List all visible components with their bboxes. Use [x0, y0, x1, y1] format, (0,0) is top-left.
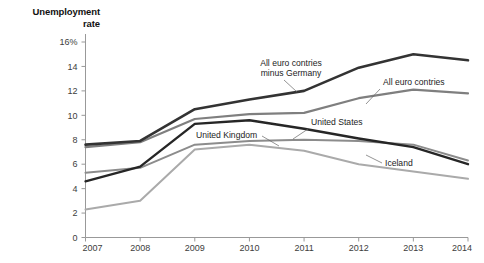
x-tick-label: 2008 — [130, 243, 150, 253]
y-tick-label: 12 — [67, 86, 77, 96]
series-label: Iceland — [385, 158, 413, 168]
series-label: All euro contries — [383, 77, 445, 87]
annotation-leader-line — [284, 80, 297, 92]
annotation-leader-line — [366, 155, 382, 163]
x-tick-label: 2011 — [294, 243, 313, 253]
series-line — [86, 145, 469, 210]
x-tick-label: 2013 — [403, 243, 423, 253]
x-tick-label: 2012 — [349, 243, 369, 253]
y-tick-label: 16% — [59, 37, 77, 47]
y-tick-label: 0 — [72, 233, 77, 243]
series-label: United States — [311, 117, 363, 127]
unemployment-rate-line-chart: Unemployment rate 0246810121416% 2007200… — [0, 0, 484, 263]
series-label: All euro contries — [260, 58, 322, 68]
y-tick-label: 6 — [72, 159, 77, 169]
y-tick-label: 14 — [67, 62, 77, 72]
series-inline-labels: All euro contriesminus GermanyAll euro c… — [196, 58, 445, 168]
x-tick-label: 2010 — [239, 243, 259, 253]
chart-plot-area: 0246810121416% 2007200820092010201120122… — [0, 0, 484, 263]
y-tick-label: 2 — [72, 208, 77, 218]
y-tick-label: 8 — [72, 135, 77, 145]
annotation-leader-line — [293, 129, 308, 139]
x-tick-label: 2014 — [452, 243, 472, 253]
y-tick-label: 4 — [72, 184, 77, 194]
series-label-line2: minus Germany — [261, 68, 322, 78]
series-label: United Kingdom — [196, 130, 257, 140]
y-tick-label: 10 — [67, 111, 77, 121]
x-tick-label: 2007 — [83, 243, 103, 253]
x-tick-label: 2009 — [185, 243, 205, 253]
y-axis-ticks: 0246810121416% — [59, 37, 85, 243]
x-axis-ticks: 20072008200920102011201220132014 — [83, 238, 473, 254]
